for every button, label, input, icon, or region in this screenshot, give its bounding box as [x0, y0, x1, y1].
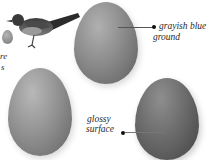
egg-small-left	[2, 30, 13, 44]
ground-label-line2: ground	[153, 32, 180, 42]
left-text-fragment-2: s	[1, 62, 5, 72]
bird-illustration	[4, 5, 80, 51]
surface-label-line2: surface	[86, 124, 114, 134]
surface-leader-line	[125, 132, 165, 133]
egg-top-center	[74, 2, 138, 84]
egg-bottom-right	[135, 78, 199, 160]
ground-label-line1: grayish blue	[159, 21, 206, 31]
bird-icon	[4, 5, 80, 51]
ground-leader-dot	[152, 25, 156, 29]
left-text-fragment-1: re	[0, 51, 7, 61]
ground-leader-line	[118, 27, 154, 28]
egg-bottom-left	[8, 68, 72, 156]
surface-label-line1: glossy	[87, 114, 111, 124]
